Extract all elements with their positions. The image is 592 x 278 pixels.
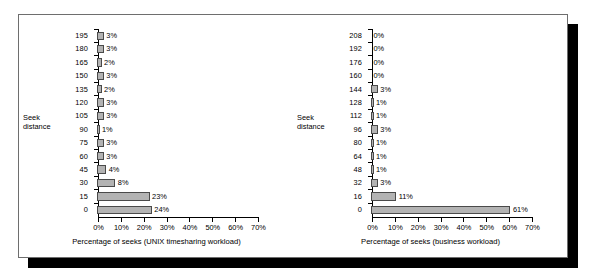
value-axis-tick-label: 50% bbox=[205, 224, 220, 231]
bar bbox=[97, 85, 102, 93]
category-tick-label: 128 bbox=[293, 99, 367, 106]
category-tick-label: 30 bbox=[19, 179, 93, 186]
bar-container: 8% bbox=[93, 176, 294, 189]
bar bbox=[371, 139, 374, 147]
bar-value-label: 3% bbox=[380, 126, 391, 133]
seek-distance-line2: distance bbox=[297, 122, 359, 132]
category-tick-label: 0 bbox=[19, 206, 93, 213]
category-tick-label: 64 bbox=[293, 153, 367, 160]
bar-value-label: 3% bbox=[106, 139, 117, 146]
bar-container: 2% bbox=[93, 56, 294, 69]
value-axis-tick bbox=[121, 218, 122, 222]
bar-container: 3% bbox=[93, 29, 294, 42]
bar-value-label: 3% bbox=[106, 72, 117, 79]
bar-row: 308% bbox=[19, 176, 294, 189]
bar-row: 1920% bbox=[293, 42, 568, 55]
bar-row: 603% bbox=[19, 150, 294, 163]
bar-container: 24% bbox=[93, 203, 294, 216]
bar-row: 753% bbox=[19, 136, 294, 149]
bar-value-label: 8% bbox=[118, 179, 129, 186]
bar bbox=[97, 179, 115, 187]
bar-row: 1352% bbox=[19, 83, 294, 96]
value-axis-tick-label: 60% bbox=[502, 224, 517, 231]
bar-row: 1803% bbox=[19, 42, 294, 55]
bar-row: 1503% bbox=[19, 69, 294, 82]
category-tick-label: 160 bbox=[293, 72, 367, 79]
bar-container: 23% bbox=[93, 190, 294, 203]
bar-value-label: 1% bbox=[376, 139, 387, 146]
bar-container: 0% bbox=[367, 69, 568, 82]
bar-value-label: 1% bbox=[376, 99, 387, 106]
bar-container: 0% bbox=[367, 56, 568, 69]
bar-row: 024% bbox=[19, 203, 294, 216]
value-axis-tick-label: 30% bbox=[434, 224, 449, 231]
bar-row: 454% bbox=[19, 163, 294, 176]
bar-container: 3% bbox=[367, 123, 568, 136]
bar-value-label: 61% bbox=[513, 206, 528, 213]
bar-value-label: 3% bbox=[106, 45, 117, 52]
bar-value-label: 23% bbox=[152, 193, 167, 200]
bar-row: 801% bbox=[293, 136, 568, 149]
value-axis-tick bbox=[235, 218, 236, 222]
bar-container: 3% bbox=[93, 42, 294, 55]
category-tick-label: 75 bbox=[19, 139, 93, 146]
value-axis-tick bbox=[167, 218, 168, 222]
bar-value-label: 24% bbox=[154, 206, 169, 213]
bar-value-label: 0% bbox=[374, 72, 385, 79]
value-axis-tick bbox=[144, 218, 145, 222]
bar bbox=[371, 112, 374, 120]
value-axis-tick-label: 20% bbox=[137, 224, 152, 231]
bar bbox=[97, 192, 150, 200]
category-tick-label: 135 bbox=[19, 86, 93, 93]
bar-container: 0% bbox=[367, 29, 568, 42]
bar-container: 3% bbox=[93, 150, 294, 163]
bar-container: 1% bbox=[367, 150, 568, 163]
bar bbox=[97, 32, 104, 40]
category-tick-label: 192 bbox=[293, 45, 367, 52]
bar-row: 1760% bbox=[293, 56, 568, 69]
bar bbox=[371, 152, 374, 160]
bar-row: 1443% bbox=[293, 83, 568, 96]
bar bbox=[97, 98, 104, 106]
figure-root: 1953%1803%1652%1503%1352%1203%1053%901%7… bbox=[0, 0, 592, 278]
bar-row: 2080% bbox=[293, 29, 568, 42]
bar bbox=[371, 192, 396, 200]
category-tick-label: 195 bbox=[19, 32, 93, 39]
bar bbox=[97, 152, 104, 160]
bar-value-label: 3% bbox=[106, 112, 117, 119]
seek-distance-line2: distance bbox=[23, 122, 85, 132]
value-axis-tick bbox=[395, 218, 396, 222]
bar-value-label: 0% bbox=[374, 59, 385, 66]
value-axis-tick bbox=[463, 218, 464, 222]
bar-value-label: 3% bbox=[380, 179, 391, 186]
bar bbox=[97, 58, 102, 66]
bar bbox=[371, 165, 374, 173]
bar-container: 3% bbox=[93, 96, 294, 109]
value-axis-tick bbox=[212, 218, 213, 222]
value-axis-tick-label: 30% bbox=[160, 224, 175, 231]
value-axis-tick bbox=[98, 218, 99, 222]
bar-container: 1% bbox=[367, 96, 568, 109]
bar bbox=[97, 139, 104, 147]
bar-value-label: 1% bbox=[376, 166, 387, 173]
value-axis-tick bbox=[441, 218, 442, 222]
bar-row: 1281% bbox=[293, 96, 568, 109]
category-tick-label: 48 bbox=[293, 166, 367, 173]
bar-row: 1652% bbox=[19, 56, 294, 69]
value-axis-tick bbox=[258, 218, 259, 222]
bar-row: 1600% bbox=[293, 69, 568, 82]
seek-distance-line1: Seek bbox=[297, 113, 359, 123]
value-axis-tick bbox=[509, 218, 510, 222]
bar-container: 4% bbox=[93, 163, 294, 176]
category-tick-label: 15 bbox=[19, 193, 93, 200]
bar bbox=[371, 206, 510, 214]
value-axis-tick bbox=[372, 218, 373, 222]
value-axis-tick-label: 60% bbox=[228, 224, 243, 231]
bar bbox=[97, 125, 100, 133]
bar-row: 061% bbox=[293, 203, 568, 216]
chart-business-workload: 2080%1920%1760%1600%1443%1281%1121%963%8… bbox=[293, 15, 567, 259]
bar bbox=[97, 165, 106, 173]
value-axis-tick-label: 40% bbox=[183, 224, 198, 231]
bar-container: 3% bbox=[93, 69, 294, 82]
value-axis-tick bbox=[532, 218, 533, 222]
